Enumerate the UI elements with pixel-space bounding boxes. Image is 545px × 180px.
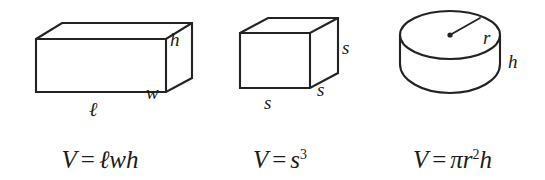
cube-side-depth-label: s (317, 80, 324, 99)
cylinder-formula-pi: π (450, 146, 463, 173)
prism-height-label: h (170, 30, 180, 49)
prism-formula-lhs: V (62, 146, 77, 173)
cube-side-bottom-label: s (264, 93, 271, 112)
cylinder-formula-equals: = (428, 146, 450, 173)
cube-formula-exponent: 3 (300, 147, 307, 162)
prism-formula-height: h (126, 146, 139, 173)
cube-formula-equals: = (268, 146, 290, 173)
rectangular-prism-drawing (0, 0, 200, 130)
cube-side-right-label: s (342, 38, 349, 57)
prism-formula-equals: = (77, 146, 99, 173)
cylinder-volume-formula: V=πr2h (360, 147, 545, 172)
panel-cube: s s s V=s3 (200, 0, 360, 180)
cube-volume-formula: V=s3 (200, 147, 360, 172)
prism-length-label: ℓ (89, 99, 97, 119)
prism-formula-width: w (109, 146, 126, 173)
cube-formula-base: s (290, 146, 300, 173)
geometry-volume-figure: h w ℓ V=ℓwh s s s V=s3 (0, 0, 545, 180)
panel-rectangular-prism: h w ℓ V=ℓwh (0, 0, 200, 180)
cylinder-center-dot (447, 32, 452, 37)
cylinder-height-label: h (508, 52, 518, 71)
prism-volume-formula: V=ℓwh (0, 147, 200, 172)
cylinder-formula-lhs: V (413, 146, 428, 173)
cylinder-formula-exponent: 2 (473, 147, 480, 162)
cube-formula-lhs: V (253, 146, 268, 173)
panel-cylinder: r h V=πr2h (360, 0, 545, 180)
cylinder-formula-height: h (480, 146, 493, 173)
cube-front-face (240, 33, 310, 88)
cylinder-formula-base: r (463, 146, 473, 173)
prism-width-label: w (146, 83, 159, 102)
cube-drawing (200, 0, 360, 130)
cylinder-radius-label: r (483, 28, 490, 47)
prism-formula-length: ℓ (99, 145, 109, 174)
